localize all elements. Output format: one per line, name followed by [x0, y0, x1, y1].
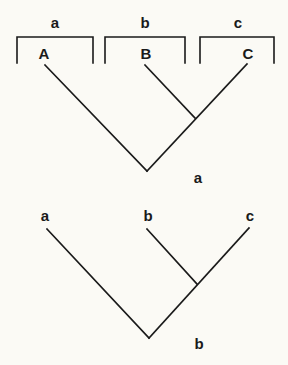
taxon-label-B: B	[141, 45, 152, 62]
group-label-c: c	[234, 14, 242, 31]
bracket-a	[17, 37, 93, 63]
branch-A	[45, 65, 147, 171]
tree-a-caption: a	[194, 169, 203, 186]
cladogram-figure: a b c A B C a a b c b	[0, 0, 288, 365]
leaf-label-b: b	[143, 207, 152, 224]
taxon-label-A: A	[39, 45, 50, 62]
bracket-c	[200, 37, 274, 63]
branch-B	[145, 65, 195, 118]
taxon-label-C: C	[243, 45, 254, 62]
group-label-a: a	[51, 14, 60, 31]
branch-c-to-root	[149, 228, 249, 338]
tree-a: a b c A B C a	[17, 14, 274, 186]
tree-b-caption: b	[194, 335, 203, 352]
leaf-label-c: c	[246, 207, 254, 224]
branch-b	[147, 229, 197, 284]
leaf-label-a: a	[41, 207, 50, 224]
branch-a	[47, 229, 149, 338]
branch-C-to-root	[147, 64, 247, 171]
tree-b: a b c b	[41, 207, 254, 352]
group-label-b: b	[140, 14, 149, 31]
